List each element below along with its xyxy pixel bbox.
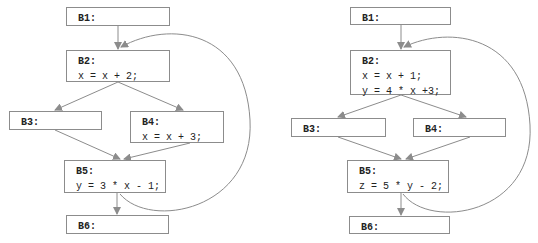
edge-left-b2-b4 (118, 82, 183, 110)
edge-left-b2-b3 (55, 82, 118, 110)
block-label: B1: (362, 11, 450, 26)
block-label: B6: (78, 219, 168, 234)
right-block-b5: B5: z = 5 * y - 2; (347, 160, 449, 193)
block-label: B2: (78, 54, 169, 69)
block-statement: y = 4 * x +3; (362, 84, 450, 99)
left-block-b3: B3: (9, 111, 102, 130)
block-label: B4: (425, 122, 505, 137)
block-label: B3: (303, 122, 385, 137)
right-block-b1: B1: (350, 7, 451, 25)
left-block-b2: B2: x = x + 2; (66, 50, 170, 82)
right-block-b4: B4: (413, 118, 506, 137)
block-label: B6: (361, 220, 449, 235)
block-label: B2: (362, 54, 450, 69)
block-statement: x = x + 3; (142, 130, 223, 145)
block-statement: y = 3 * x - 1; (76, 179, 165, 194)
block-label: B4: (142, 115, 223, 130)
block-label: B3: (21, 115, 101, 130)
edge-left-b3-b5 (55, 130, 120, 159)
right-block-b3: B3: (291, 118, 386, 137)
right-block-b2: B2: x = x + 1; y = 4 * x +3; (350, 50, 451, 95)
block-label: B5: (359, 164, 448, 179)
block-statement: x = x + 2; (78, 69, 169, 84)
left-block-b1: B1: (66, 7, 170, 26)
left-block-b4: B4: x = x + 3; (130, 111, 224, 143)
left-block-b5: B5: y = 3 * x - 1; (64, 160, 166, 193)
edge-right-b4-b5 (406, 137, 470, 159)
block-label: B1: (78, 11, 169, 26)
left-block-b6: B6: (66, 215, 169, 234)
edge-right-b3-b5 (338, 137, 401, 159)
edge-left-b4-b5 (124, 143, 190, 159)
block-statement: z = 5 * y - 2; (359, 179, 448, 194)
block-statement: x = x + 1; (362, 69, 450, 84)
right-block-b6: B6: (349, 216, 450, 234)
block-label: B5: (76, 164, 165, 179)
